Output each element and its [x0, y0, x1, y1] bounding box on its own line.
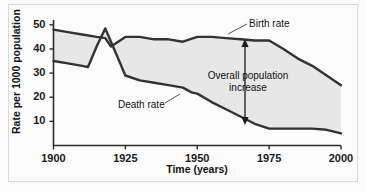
birth-rate-leader-line: [228, 24, 247, 34]
y-tick-label-10: 10: [18, 114, 46, 126]
x-tick-label-1925: 1925: [105, 152, 145, 164]
death-rate-annotation: Death rate: [118, 99, 165, 110]
overall-increase-line2: increase: [229, 82, 267, 93]
x-tick-label-1950: 1950: [177, 152, 217, 164]
figure-container: Rate per 1000 population Time (years) 10…: [0, 0, 366, 192]
x-axis-title: Time (years): [53, 163, 341, 175]
overall-increase-line1: Overall population: [208, 70, 289, 81]
death-rate-leader-line: [165, 94, 180, 103]
x-tick-label-1975: 1975: [249, 152, 289, 164]
x-tick-label-1900: 1900: [34, 152, 74, 164]
overall-increase-annotation: Overall population increase: [178, 70, 318, 94]
y-tick-label-30: 30: [18, 66, 46, 78]
y-tick-label-40: 40: [18, 42, 46, 54]
birth-rate-annotation: Birth rate: [249, 18, 290, 29]
x-tick-label-2000: 2000: [321, 152, 361, 164]
y-tick-label-20: 20: [18, 90, 46, 102]
y-tick-label-50: 50: [18, 18, 46, 30]
